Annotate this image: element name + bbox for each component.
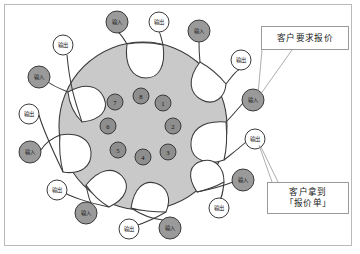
callout-bottom-line-2: 「报价单」 — [285, 198, 332, 209]
input-node-4[interactable]: 输入 — [28, 66, 50, 88]
input-node-2-label: 输入 — [194, 27, 205, 35]
connector-out-8 — [224, 141, 247, 160]
stage-node-2-label: 2 — [171, 123, 174, 130]
stage-node-2[interactable]: 2 — [165, 118, 181, 134]
output-node-1-label: 输出 — [236, 56, 246, 64]
input-node-3[interactable]: 输入 — [106, 11, 128, 33]
petal-northeast — [191, 62, 226, 102]
input-node-2[interactable]: 输入 — [188, 20, 210, 42]
output-node-2-label: 输出 — [154, 18, 164, 26]
callout-customer-requests-quote: 客户要求报价 — [261, 26, 349, 50]
input-node-5[interactable]: 输入 — [19, 141, 41, 163]
stage-node-3[interactable]: 3 — [160, 144, 176, 160]
output-node-7-label: 输出 — [214, 204, 224, 212]
stage-node-5[interactable]: 5 — [110, 142, 126, 158]
connector-in-4 — [47, 81, 68, 92]
stage-node-1-label: 1 — [161, 100, 164, 107]
output-node-6[interactable]: 输出 — [119, 219, 139, 239]
connector-out-7 — [220, 182, 224, 199]
callout-bottom-leader-b — [261, 147, 278, 182]
connector-in-2 — [199, 42, 200, 62]
input-node-8-label: 输入 — [238, 176, 249, 184]
connector-out-2 — [159, 32, 163, 45]
input-node-5-label: 输入 — [25, 148, 36, 156]
input-node-8[interactable]: 输入 — [232, 169, 254, 191]
connector-in-3 — [118, 33, 127, 44]
output-node-4-label: 输出 — [24, 110, 34, 118]
callout-top-line-1: 客户要求报价 — [277, 33, 333, 44]
stage-node-4[interactable]: 4 — [135, 149, 151, 165]
stage-node-7[interactable]: 7 — [107, 94, 123, 110]
output-node-5-label: 输出 — [52, 186, 62, 194]
output-node-6-label: 输出 — [124, 225, 134, 233]
callout-leader-lines — [258, 50, 292, 182]
stage-node-1[interactable]: 1 — [155, 95, 171, 111]
output-node-5[interactable]: 输出 — [47, 180, 67, 200]
callout-bottom-leader-a — [259, 145, 272, 182]
output-node-1[interactable]: 输出 — [231, 50, 251, 70]
stage-node-6[interactable]: 6 — [100, 118, 116, 134]
output-node-3[interactable]: 输出 — [53, 35, 73, 55]
connector-in-1 — [226, 102, 244, 122]
input-node-6[interactable]: 输入 — [75, 202, 97, 224]
input-node-1-label: 输入 — [248, 96, 259, 104]
input-node-7[interactable]: 输入 — [159, 217, 181, 239]
output-node-2[interactable]: 输出 — [149, 12, 169, 32]
output-node-3-label: 输出 — [58, 41, 68, 49]
input-node-3-label: 输入 — [112, 18, 123, 26]
input-node-6-label: 输入 — [81, 209, 92, 217]
callout-top-leader-b — [260, 50, 292, 95]
output-node-8[interactable]: 输出 — [245, 129, 265, 149]
input-node-4-label: 输入 — [34, 73, 45, 81]
stage-node-8[interactable]: 8 — [133, 88, 149, 104]
output-node-4[interactable]: 输出 — [19, 104, 39, 124]
connector-in-5 — [41, 135, 60, 150]
callout-top-leader-a — [258, 50, 262, 94]
callout-customer-receives-quote: 客户拿到 「报价单」 — [267, 182, 349, 214]
input-node-1[interactable]: 输入 — [242, 89, 264, 111]
output-node-8-label: 输出 — [250, 135, 260, 143]
input-node-7-label: 输入 — [165, 224, 176, 232]
connector-out-1 — [226, 70, 239, 84]
callout-bottom-line-1: 客户拿到 — [289, 187, 327, 198]
output-node-7[interactable]: 输出 — [209, 198, 229, 218]
